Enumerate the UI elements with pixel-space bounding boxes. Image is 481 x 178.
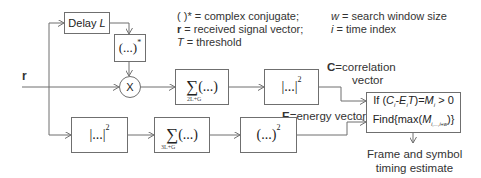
legend-w-text: = search window size	[339, 10, 447, 22]
decision-m: M	[425, 94, 434, 106]
energy-sum-subscript: 3L+G	[161, 144, 175, 150]
decision-condition: If (Ci-EiT)=Mi > 0	[373, 94, 454, 112]
correlation-text: =correlation	[335, 61, 395, 73]
diagram-canvas: r Delay L (...)* X ∑(...) 2L+G |...|2 C=…	[0, 0, 481, 178]
conjugate-block: (...)*	[114, 34, 146, 62]
output-label-line2: timing estimate	[367, 162, 462, 175]
correlation-sum-subscript: 2L+G	[187, 96, 201, 102]
correlation-sum-label: (...)	[198, 79, 218, 95]
decision-find-m: M	[422, 113, 431, 125]
correlation-magnitude-block: |...|2	[264, 69, 319, 105]
decision-find-max: Find{max(Mi,...,i+w)}	[373, 113, 455, 131]
sigma-icon: ∑	[166, 125, 178, 145]
correlation-magnitude-exponent: 2	[298, 75, 302, 84]
conjugate-star: *	[137, 38, 141, 47]
decision-find: Find{max(	[373, 113, 423, 125]
legend-i-text: = time index	[333, 23, 396, 35]
delay-variable: L	[100, 17, 106, 29]
decision-c: C	[386, 94, 394, 106]
multiplier-node: X	[119, 76, 141, 98]
energy-sum-label: (...)	[178, 127, 198, 143]
correlation-sum-block: ∑(...) 2L+G	[175, 69, 229, 105]
energy-magnitude-label: |...|	[89, 127, 105, 143]
legend-r-text: = received signal vector;	[181, 23, 303, 35]
energy-square-exponent: 2	[276, 123, 280, 132]
decision-block: If (Ci-EiT)=Mi > 0 Find{max(Mi,...,i+w)}	[366, 92, 461, 133]
legend-threshold: T = threshold	[177, 36, 242, 49]
delay-label: Delay	[68, 17, 96, 29]
input-signal-label: r	[22, 70, 27, 83]
sigma-icon: ∑	[186, 77, 198, 97]
energy-sum-block: ∑(...) 3L+G	[154, 117, 210, 153]
energy-square-label: (...)	[257, 127, 277, 143]
multiplier-label: X	[126, 81, 133, 93]
correlation-vector-label-line2: vector	[352, 74, 383, 87]
decision-find-range: i,...,i+w	[431, 121, 447, 127]
legend-received-signal: r = received signal vector;	[177, 23, 303, 36]
legend-w-symbol: w	[331, 10, 339, 22]
correlation-vector-label: C=correlation	[327, 61, 396, 74]
decision-find-close: )}	[447, 113, 454, 125]
decision-eq: )=	[414, 94, 424, 106]
delay-block: Delay L	[64, 12, 110, 34]
energy-text: =energy vector	[290, 110, 366, 122]
legend-time-index: i = time index	[331, 23, 396, 36]
conjugate-label: (...)	[119, 40, 137, 56]
legend-t-text: = threshold	[184, 36, 242, 48]
decision-gt-zero: > 0	[435, 94, 454, 106]
decision-if: If (	[373, 94, 386, 106]
legend-window-size: w = search window size	[331, 10, 447, 23]
energy-square-block: (...)2	[240, 117, 297, 153]
energy-magnitude-exponent: 2	[106, 123, 110, 132]
energy-magnitude-block: |...|2	[71, 117, 128, 153]
legend-conjugate: ( )* = complex conjugate;	[177, 10, 299, 23]
correlation-magnitude-label: |...|	[281, 79, 297, 95]
legend-t-symbol: T	[177, 36, 184, 48]
output-label-line1: Frame and symbol	[367, 148, 462, 161]
